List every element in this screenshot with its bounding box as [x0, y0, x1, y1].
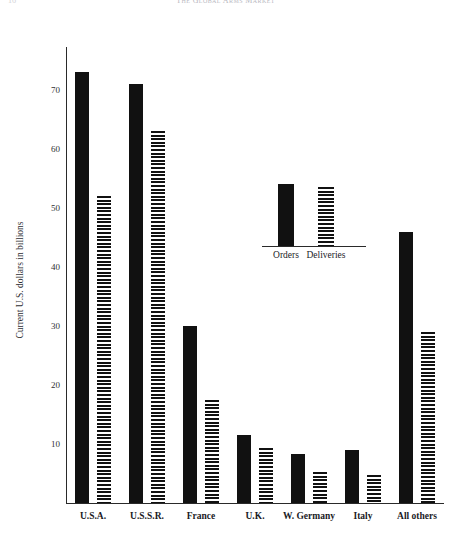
- bar-deliveries-u-s-s-r: [151, 131, 165, 503]
- bar-orders-u-k: [237, 435, 251, 503]
- y-axis-tick-label: 10: [34, 439, 60, 449]
- y-axis-ticks: 10203040506070: [30, 0, 60, 548]
- legend-label-deliveries: Deliveries: [306, 250, 345, 260]
- y-axis-tick-label: 20: [34, 380, 60, 390]
- x-axis-label-u-k: U.K.: [246, 511, 265, 521]
- chart-legend: OrdersDeliveries: [262, 92, 372, 167]
- y-axis-title: Current U.S. dollars in billions: [15, 180, 25, 380]
- bar-orders-france: [183, 326, 197, 503]
- x-axis-line: [66, 503, 444, 504]
- bar-orders-u-s-s-r: [129, 84, 143, 503]
- bar-deliveries-france: [205, 400, 219, 503]
- bar-orders-all-others: [399, 232, 413, 503]
- x-axis-label-all-others: All others: [397, 511, 437, 521]
- x-axis-label-w-germany: W. Germany: [283, 511, 335, 521]
- bar-deliveries-w-germany: [313, 472, 327, 503]
- y-axis-line: [66, 47, 67, 504]
- y-axis-tick-label: 40: [34, 262, 60, 272]
- y-axis-tick-label: 30: [34, 321, 60, 331]
- x-axis-label-u-s-s-r: U.S.S.R.: [130, 511, 164, 521]
- legend-swatch-deliveries: [318, 187, 334, 246]
- y-axis-tick-label: 50: [34, 203, 60, 213]
- x-axis-label-italy: Italy: [354, 511, 373, 521]
- legend-label-orders: Orders: [273, 250, 299, 260]
- bar-orders-u-s-a: [75, 72, 89, 503]
- bar-chart: 10203040506070 Current U.S. dollars in b…: [0, 0, 451, 548]
- bar-deliveries-u-k: [259, 448, 273, 503]
- bar-deliveries-all-others: [421, 332, 435, 503]
- y-axis-tick-label: 70: [34, 85, 60, 95]
- y-axis-tick-label: 60: [34, 144, 60, 154]
- x-axis-label-u-s-a: U.S.A.: [80, 511, 106, 521]
- bar-deliveries-u-s-a: [97, 196, 111, 503]
- legend-swatch-orders: [278, 184, 294, 246]
- x-axis-label-france: France: [187, 511, 216, 521]
- legend-baseline: [262, 246, 366, 247]
- bar-orders-italy: [345, 450, 359, 503]
- bar-orders-w-germany: [291, 454, 305, 503]
- bar-deliveries-italy: [367, 475, 381, 503]
